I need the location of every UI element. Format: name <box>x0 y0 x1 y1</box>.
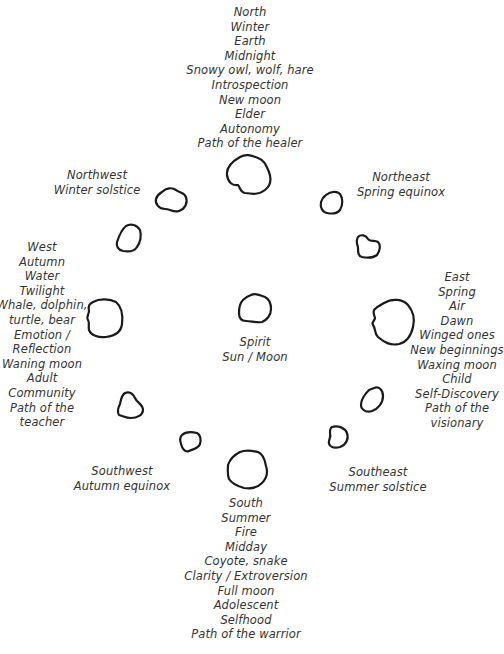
southeast-label: Southeast Summer solstice <box>329 465 426 494</box>
southeast-direction: Southeast <box>329 465 426 480</box>
north-element: Earth <box>186 34 313 49</box>
north-animals: Snowy owl, wolf, hare <box>186 63 313 78</box>
stone-east <box>372 300 413 345</box>
south-direction: South <box>184 496 307 511</box>
southwest-label: Southwest Autumn equinox <box>74 464 171 493</box>
west-animals-1: Whale, dolphin, <box>0 298 88 313</box>
east-element: Air <box>410 299 503 314</box>
stone-southwest-1 <box>180 432 201 451</box>
stone-north <box>227 155 271 194</box>
west-direction: West <box>0 240 88 255</box>
east-path-2: visionary <box>410 416 503 431</box>
stone-west <box>87 299 122 337</box>
west-label: West Autumn Water Twilight Whale, dolphi… <box>0 240 88 430</box>
southwest-event: Autumn equinox <box>74 479 171 494</box>
west-life-stage: Adult <box>0 371 88 386</box>
stone-northeast-2 <box>357 235 380 257</box>
west-path-2: teacher <box>0 415 88 430</box>
stone-northwest-1 <box>156 188 187 211</box>
south-element: Fire <box>184 525 307 540</box>
east-path-1: Path of the <box>410 401 503 416</box>
center-sun-moon: Sun / Moon <box>222 350 287 365</box>
northwest-event: Winter solstice <box>54 183 141 198</box>
west-animals-2: turtle, bear <box>0 313 88 328</box>
west-path-1: Path of the <box>0 401 88 416</box>
south-season: Summer <box>184 511 307 526</box>
center-label: Spirit Sun / Moon <box>222 335 287 364</box>
stone-northwest-2 <box>117 225 141 252</box>
south-quality: Clarity / Extroversion <box>184 569 307 584</box>
stone-southeast-1 <box>329 426 348 447</box>
west-time: Twilight <box>0 284 88 299</box>
south-animals: Coyote, snake <box>184 554 307 569</box>
north-moon: New moon <box>186 93 313 108</box>
east-direction: East <box>410 270 503 285</box>
northeast-direction: Northeast <box>357 170 445 185</box>
west-element: Water <box>0 269 88 284</box>
north-path: Path of the healer <box>186 136 313 151</box>
northwest-direction: Northwest <box>54 168 141 183</box>
west-quality-2: Reflection <box>0 342 88 357</box>
east-season: Spring <box>410 285 503 300</box>
south-time: Midday <box>184 540 307 555</box>
center-spirit: Spirit <box>222 335 287 350</box>
northeast-event: Spring equinox <box>357 185 445 200</box>
east-life-stage: Child <box>410 372 503 387</box>
west-quality-1: Emotion / <box>0 328 88 343</box>
west-moon: Waning moon <box>0 357 88 372</box>
south-value: Selfhood <box>184 613 307 628</box>
west-value: Community <box>0 386 88 401</box>
east-label: East Spring Air Dawn Winged ones New beg… <box>410 270 503 431</box>
north-quality: Introspection <box>186 78 313 93</box>
north-label: North Winter Earth Midnight Snowy owl, w… <box>186 5 313 151</box>
north-life-stage: Elder <box>186 107 313 122</box>
south-path: Path of the warrior <box>184 627 307 642</box>
stone-center-spirit <box>239 294 271 322</box>
west-season: Autumn <box>0 255 88 270</box>
northwest-label: Northwest Winter solstice <box>54 168 141 197</box>
south-label: South Summer Fire Midday Coyote, snake C… <box>184 496 307 642</box>
north-direction: North <box>186 5 313 20</box>
east-quality: New beginnings <box>410 343 503 358</box>
stone-southeast-2 <box>361 387 383 411</box>
northeast-label: Northeast Spring equinox <box>357 170 445 199</box>
southeast-event: Summer solstice <box>329 480 426 495</box>
stone-southwest-2 <box>118 392 143 418</box>
east-value: Self-Discovery <box>410 387 503 402</box>
north-value: Autonomy <box>186 122 313 137</box>
east-animals: Winged ones <box>410 328 503 343</box>
south-moon: Full moon <box>184 584 307 599</box>
southwest-direction: Southwest <box>74 464 171 479</box>
east-moon: Waxing moon <box>410 358 503 373</box>
east-time: Dawn <box>410 314 503 329</box>
stone-northeast-1 <box>321 192 343 214</box>
north-season: Winter <box>186 20 313 35</box>
stone-south <box>228 450 267 488</box>
south-life-stage: Adolescent <box>184 598 307 613</box>
north-time: Midnight <box>186 49 313 64</box>
